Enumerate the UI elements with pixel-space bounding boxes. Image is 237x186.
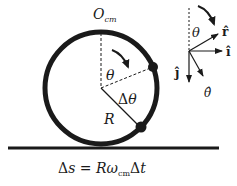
- vector-rotation-arrow-icon: [198, 6, 214, 24]
- origin-label: Ocm: [93, 6, 117, 24]
- arc-length-equation: Δs = RωcmΔt: [58, 160, 146, 178]
- r-hat-label: r̂: [222, 25, 229, 39]
- theta-label: θ: [106, 67, 115, 83]
- rim-point-lower: [136, 122, 147, 133]
- radius-label: R: [103, 111, 115, 127]
- j-hat-label: ĵ: [174, 66, 180, 80]
- theta-hat-arrow: [189, 51, 203, 76]
- theta-hat-label: θ̂: [204, 86, 212, 100]
- rotation-arrow-icon: [112, 50, 128, 67]
- i-hat-label: î: [226, 45, 231, 59]
- delta-theta-label: Δθ: [118, 91, 137, 107]
- vector-theta-label: θ: [192, 25, 200, 40]
- rolling-wheel-diagram: Ocm θ Δθ R Δs = RωcmΔt θ r̂ î ĵ θ̂: [0, 0, 237, 186]
- rim-point-upper: [148, 62, 158, 72]
- unit-vector-diagram: θ r̂ î ĵ θ̂: [174, 6, 231, 100]
